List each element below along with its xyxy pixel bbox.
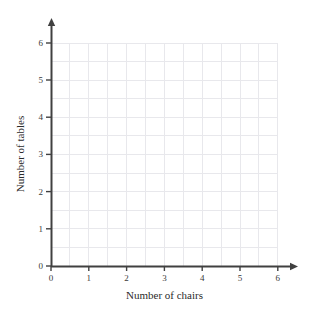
x-tick-label-2: 2	[124, 274, 129, 283]
y-tick-label-2: 2	[35, 187, 43, 196]
y-axis-ticks	[46, 43, 51, 266]
x-tick-label-0: 0	[49, 274, 54, 283]
x-axis-title: Number of chairs	[51, 289, 278, 301]
graph-figure: 0 1 2 3 4 5 6 0 1 2 3 4 5 6 Number of ch…	[0, 0, 312, 312]
x-tick-label-6: 6	[276, 274, 281, 283]
grid-lines	[51, 43, 278, 266]
x-tick-label-5: 5	[238, 274, 243, 283]
y-axis-title: Number of tables	[14, 116, 26, 192]
y-tick-label-1: 1	[35, 224, 43, 233]
y-tick-label-0: 0	[35, 262, 43, 271]
x-tick-label-4: 4	[200, 274, 205, 283]
x-axis-line	[51, 263, 298, 270]
y-tick-label-6: 6	[35, 39, 43, 48]
plot-area	[0, 0, 312, 312]
x-tick-label-1: 1	[87, 274, 92, 283]
y-tick-label-3: 3	[35, 150, 43, 159]
y-tick-label-5: 5	[35, 76, 43, 85]
y-tick-label-4: 4	[35, 113, 43, 122]
x-tick-label-3: 3	[162, 274, 167, 283]
